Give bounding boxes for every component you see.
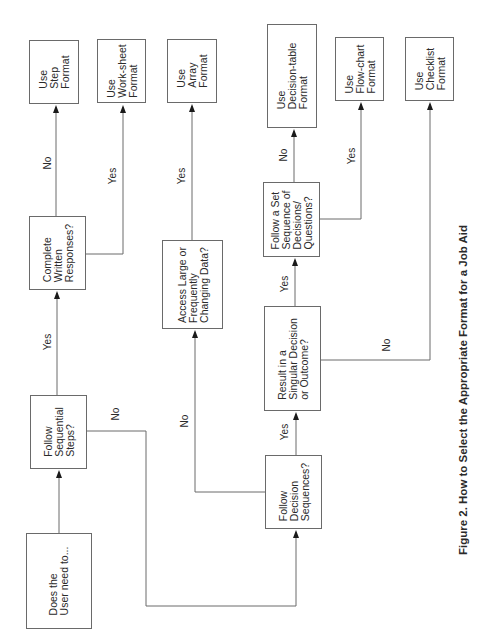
edge-label-sequential-yes: Yes [42,334,53,350]
node-label: Use Step Format [38,55,71,88]
node-label: Complete Written Responses? [41,224,74,282]
node-label: Access Large or Frequently Changing Data… [176,247,209,323]
node-label: Follow Sequential Steps? [42,407,75,457]
node-flowchart-format: Use Flow-chart Format [335,37,384,101]
node-start: Does the User need to... [26,533,92,629]
node-decision-table-format: Use Decision-table Format [267,24,317,128]
node-sequential-steps: Follow Sequential Steps? [30,395,87,469]
node-label: Use Work-sheet Format [105,44,138,98]
job-aid-format-flowchart: Use Step Format Use Work-sheet Format Us… [0,0,491,640]
edge-label-written-yes: Yes [107,168,118,184]
node-set-sequence: Follow a Set Sequence of Decisions/ Ques… [263,182,320,257]
node-checklist-format: Use Checklist Format [405,37,454,101]
node-large-data: Access Large or Frequently Changing Data… [162,240,223,329]
edge-label-set-sequence-yes: Yes [346,148,357,164]
figure-caption: Figure 2. How to Select the Appropriate … [457,225,469,555]
node-array-format: Use Array Format [167,39,217,103]
edge-label-decision-seq-no: No [179,415,190,428]
node-step-format: Use Step Format [29,40,79,104]
edge-label-sequential-no: No [110,408,121,421]
node-label: Use Array Format [176,54,209,87]
node-decision-sequences: Follow Decision Sequences? [265,455,322,529]
node-label: Use Checklist Format [413,48,446,91]
node-label: Use Decision-table Format [276,43,309,110]
node-label: Follow a Set Sequence of Decisions/ Ques… [270,190,314,249]
node-label: Use Flow-chart Format [343,44,376,93]
node-singular-decision: Result in a Singular Decision or Outcome… [264,306,321,411]
node-worksheet-format: Use Work-sheet Format [97,39,146,103]
edge-label-large-data-yes: Yes [176,168,187,184]
node-label: Follow Decision Sequences? [277,463,310,521]
edge-label-singular-yes: Yes [279,276,290,292]
node-written-responses: Complete Written Responses? [29,216,86,290]
edge-label-written-no: No [42,157,53,170]
node-label: Does the User need to... [48,547,70,616]
edge-label-set-sequence-no: No [278,149,289,162]
edge-label-decision-seq-yes: Yes [279,424,290,440]
edge-label-singular-no: No [381,339,392,352]
node-label: Result in a Singular Decision or Outcome… [276,318,309,400]
